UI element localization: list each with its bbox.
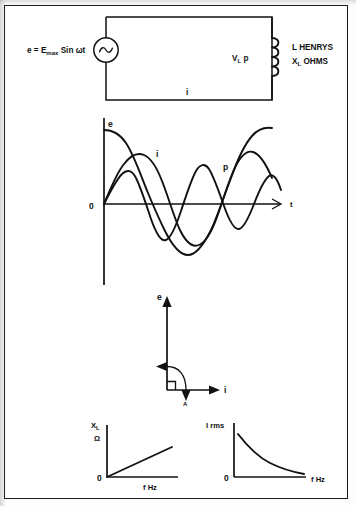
- graph-reactance-vs-frequency: XL Ω 0 f Hz: [91, 421, 178, 492]
- curve-p: [104, 165, 281, 240]
- graph-right-xlabel: f Hz: [311, 475, 325, 484]
- graph-left-origin: 0: [97, 473, 102, 483]
- inductor-voltage-label: VL p: [232, 54, 248, 64]
- phasor-e-arrowhead: [162, 296, 171, 307]
- waveform-origin-label: 0: [89, 201, 94, 211]
- graph-left-yunit: Ω: [94, 434, 100, 443]
- curve-i: [104, 152, 272, 246]
- phase-arc-arrowhead-left: [156, 362, 167, 371]
- phasor-i-arrowhead: [209, 385, 220, 394]
- phasor-e-label: e: [157, 292, 162, 302]
- phasor-i-label: i: [224, 385, 226, 395]
- figure-page: e = Emax Sin ωt VL p L HENRYS XL OHMS i …: [0, 0, 356, 506]
- right-angle-marker: [167, 382, 176, 391]
- phase-arc-arrowhead-down: [181, 390, 190, 401]
- inductance-label: L HENRYS: [292, 43, 333, 52]
- figure-canvas: e = Emax Sin ωt VL p L HENRYS XL OHMS i …: [0, 0, 356, 506]
- circuit-schematic: e = Emax Sin ωt VL p L HENRYS XL OHMS i: [27, 17, 333, 100]
- graph-right-origin: 0: [224, 473, 229, 483]
- phasor-diagram: e i A: [156, 292, 226, 407]
- source-equation: e = Emax Sin ωt: [27, 46, 86, 56]
- curve-p-label: p: [223, 162, 228, 172]
- graph-left-ylabel: XL: [91, 421, 100, 431]
- graph-left-trend-line: [107, 447, 172, 477]
- inductor-coil-icon: [272, 17, 278, 100]
- waveform-t-label: t: [290, 200, 293, 209]
- circuit-current-label: i: [186, 88, 188, 97]
- graph-right-decay-curve: [238, 434, 304, 474]
- graph-right-ylabel: I rms: [206, 421, 224, 430]
- waveform-graph: e i p 0 t: [89, 118, 293, 285]
- reactance-label: XL OHMS: [292, 57, 329, 67]
- curve-i-label: i: [156, 149, 158, 159]
- phase-arc: [167, 367, 186, 391]
- graph-left-xlabel: f Hz: [143, 483, 157, 492]
- curve-e-label: e: [108, 119, 113, 129]
- graph-current-vs-frequency: I rms 0 f Hz: [206, 421, 325, 484]
- ac-source-icon: [94, 38, 118, 62]
- phase-arc-label: A: [183, 401, 188, 407]
